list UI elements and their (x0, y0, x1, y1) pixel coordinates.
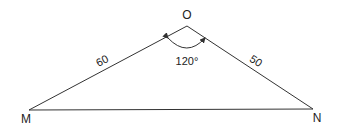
side-mn (29, 109, 313, 110)
vertex-label-n: N (313, 111, 322, 125)
side-om (29, 26, 187, 110)
angle-label: 120° (176, 55, 199, 67)
side-label-om: 60 (94, 52, 110, 68)
side-label-on: 50 (248, 52, 265, 69)
triangle-diagram: O M N 60 50 120° (0, 0, 338, 130)
angle-arc (168, 38, 205, 48)
vertex-label-o: O (182, 8, 191, 22)
side-on (187, 26, 313, 109)
vertex-label-m: M (21, 112, 31, 126)
triangle (29, 26, 313, 110)
